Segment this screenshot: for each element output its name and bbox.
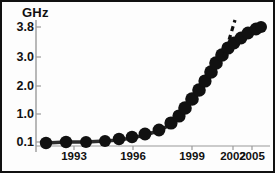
x-tick-label-2005: 2005 — [232, 150, 272, 162]
x-tick-label-1999: 1999 — [172, 150, 212, 162]
x-tick-label-1993: 1993 — [54, 150, 94, 162]
x-tick-label-1996: 1996 — [113, 150, 153, 162]
x-axis-tick-labels: 1993 1996 1999 2002 2005 — [2, 2, 275, 173]
chart-frame: GHz — [0, 0, 275, 173]
